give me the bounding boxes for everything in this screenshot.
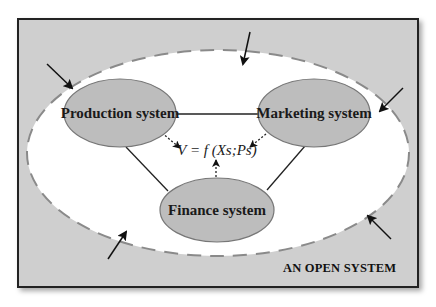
- node-finance-label: Finance system: [168, 202, 266, 218]
- node-finance: Finance system: [160, 178, 274, 242]
- external-arrow-bottom-right: [368, 216, 391, 239]
- value-formula: V = f (Xs;Ps): [177, 142, 256, 159]
- node-marketing: Marketing system: [256, 79, 372, 147]
- node-production-label: Production system: [61, 105, 180, 121]
- external-arrow-right: [380, 88, 403, 111]
- node-marketing-label: Marketing system: [256, 105, 372, 121]
- diagram-caption: AN OPEN SYSTEM: [283, 261, 396, 276]
- external-arrow-top-left: [47, 64, 72, 88]
